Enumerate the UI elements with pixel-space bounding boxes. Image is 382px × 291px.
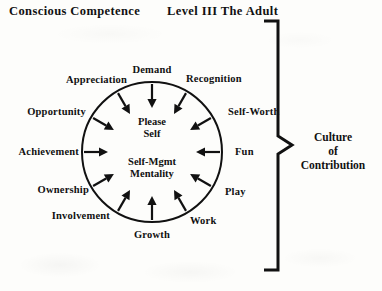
wheel-label-ownership: Ownership <box>38 184 89 196</box>
wheel-label-involvement: Involvement <box>52 210 110 222</box>
center-line-self-mgmt: Self-Mgmt <box>128 156 176 168</box>
wheel-label-fun: Fun <box>235 146 254 158</box>
center-line-mentality: Mentality <box>128 168 176 180</box>
brace-line-of: of <box>301 144 366 158</box>
wheel-label-opportunity: Opportunity <box>27 106 86 118</box>
brace-line-contribution: Contribution <box>301 158 366 172</box>
wheel-label-work: Work <box>190 215 216 227</box>
wheel-label-growth: Growth <box>134 229 170 241</box>
wheel-label-demand: Demand <box>132 64 171 76</box>
center-line-please: Please <box>138 116 166 128</box>
wheel-label-achievement: Achievement <box>18 146 79 158</box>
wheel-label-play: Play <box>225 186 246 198</box>
center-line-self: Self <box>138 128 166 140</box>
wheel-label-appreciation: Appreciation <box>66 74 127 86</box>
center-label-self-mgmt-mentality: Self-Mgmt Mentality <box>128 156 176 180</box>
wheel-label-recognition: Recognition <box>186 73 242 85</box>
center-label-please-self: Please Self <box>138 116 166 140</box>
diagram-canvas: Conscious Competence Level III The Adult… <box>0 0 382 291</box>
brace-label-culture-of-contribution: Culture of Contribution <box>301 130 366 172</box>
brace-line-culture: Culture <box>301 130 366 144</box>
wheel-arrows <box>84 84 220 220</box>
right-curly-brace <box>262 18 296 274</box>
